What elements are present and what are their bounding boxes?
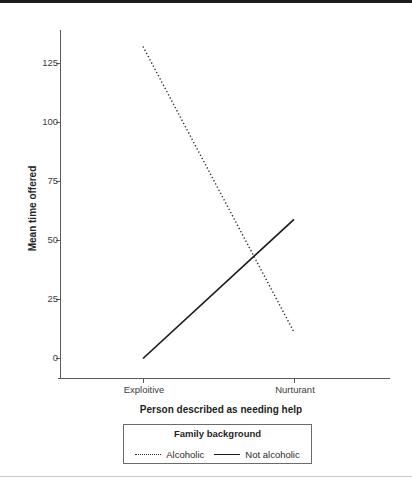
y-tick-label-0: 0: [18, 352, 58, 363]
x-tick-label-nurturant: Nurturant: [240, 384, 350, 395]
legend-label-alcoholic: Alcoholic: [166, 449, 204, 460]
y-tick-label-group: 125 100 75 50 25 0: [18, 0, 58, 485]
y-tick-label-75: 75: [18, 175, 58, 186]
dotted-line-swatch-icon: [135, 450, 161, 458]
y-tick-label-50: 50: [18, 234, 58, 245]
scanned-page: 125 100 75 50 25 0 Mean time offered Exp…: [0, 0, 412, 485]
legend-title: Family background: [124, 428, 311, 439]
y-tick-label-25: 25: [18, 293, 58, 304]
y-axis-title: Mean time offered: [27, 139, 38, 279]
y-tick-label-125: 125: [18, 57, 58, 68]
legend-entry-list: Alcoholic Not alcoholic: [124, 446, 311, 462]
x-tick-label-exploitive: Exploitive: [89, 384, 199, 395]
legend-entry-alcoholic: Alcoholic: [135, 449, 204, 460]
legend-box: Family background Alcoholic Not alcoholi…: [123, 424, 312, 464]
solid-line-swatch-icon: [214, 450, 240, 458]
x-axis-title: Person described as needing help: [56, 404, 386, 415]
legend-label-not-alcoholic: Not alcoholic: [245, 449, 299, 460]
interaction-line-chart: 125 100 75 50 25 0 Mean time offered Exp…: [0, 0, 412, 485]
legend-entry-not-alcoholic: Not alcoholic: [214, 449, 299, 460]
y-tick-label-100: 100: [18, 116, 58, 127]
